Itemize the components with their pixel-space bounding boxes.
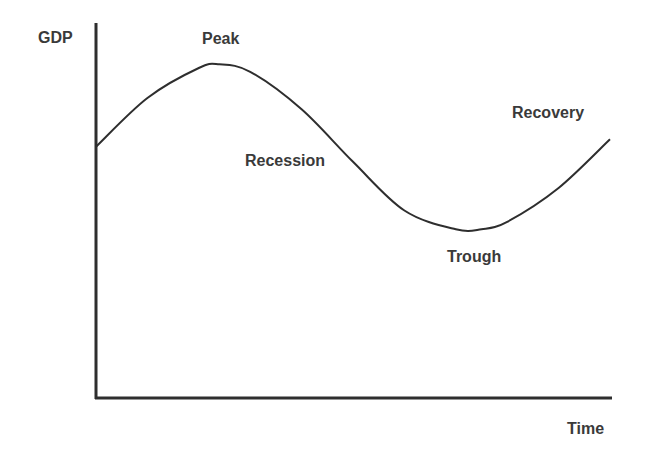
annotation-peak: Peak — [202, 30, 239, 47]
x-axis-label: Time — [567, 420, 604, 437]
business-cycle-diagram: GDP Time Peak Recession Trough Recovery — [0, 0, 648, 452]
gdp-curve — [96, 64, 610, 231]
y-axis-label: GDP — [38, 29, 73, 46]
annotation-recovery: Recovery — [512, 104, 584, 121]
annotation-trough: Trough — [447, 248, 501, 265]
annotation-recession: Recession — [245, 152, 325, 169]
